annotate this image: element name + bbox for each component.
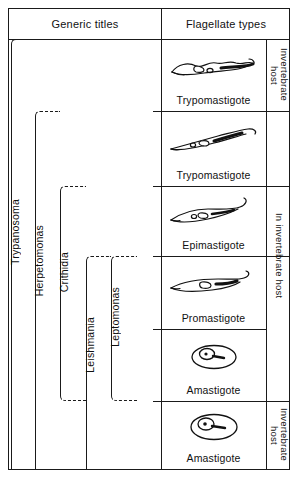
flagellate-cell-6: Amastigote: [161, 401, 266, 469]
flagellate-cell-5: Amastigote: [161, 329, 266, 401]
header-generic-titles-label: Generic titles: [52, 18, 119, 30]
genus-label-herpetomonas: Herpetomonas: [33, 225, 47, 296]
trypomastigote-wavy-icon: [161, 39, 266, 95]
host-group-3-label: Invertebrate host: [268, 408, 290, 461]
flagellate-label-4: Promastigote: [182, 313, 246, 326]
host-group-1-label: Invertebrate host: [268, 48, 290, 101]
trypomastigote-slim-icon: [161, 111, 266, 170]
genus-label-leishmania: Leishmania: [84, 317, 98, 373]
host-group-3: Invertebrate host: [266, 401, 291, 469]
trypanosomatid-figure: Generic titles Flagellate types Tryp: [0, 0, 299, 481]
promastigote-icon: [161, 256, 266, 313]
genus-label-crithidia: Crithidia: [58, 252, 72, 292]
host-group-2: In invertebrate host: [266, 111, 291, 401]
host-group-1: Invertebrate host: [266, 39, 291, 111]
flagellate-cell-3: Epimastigote: [161, 186, 266, 256]
flagellate-label-6: Amastigote: [186, 453, 240, 466]
figure-table: Generic titles Flagellate types Tryp: [8, 8, 290, 470]
genus-label-trypanosoma: Trypanosoma: [9, 199, 23, 265]
flagellate-cell-2: Trypomastigote: [161, 111, 266, 186]
genus-label-leptomonas: Leptomonas: [109, 287, 123, 347]
flagellate-cell-1: Trypomastigote: [161, 39, 266, 111]
genus-bracket-crithidia: [60, 186, 86, 401]
epimastigote-icon: [161, 186, 266, 240]
amastigote-icon: [161, 329, 266, 385]
host-group-2-label: In invertebrate host: [273, 213, 284, 298]
header-flagellate-types: Flagellate types: [161, 9, 291, 39]
flagellate-label-3: Epimastigote: [182, 240, 245, 253]
flagellate-label-1: Trypomastigote: [176, 95, 250, 108]
header-flagellate-types-label: Flagellate types: [186, 18, 266, 30]
flagellate-label-2: Trypomastigote: [176, 170, 250, 183]
header-generic-titles: Generic titles: [9, 9, 161, 39]
amastigote-icon: [161, 401, 266, 453]
flagellate-label-5: Amastigote: [186, 385, 240, 398]
flagellate-cell-4: Promastigote: [161, 256, 266, 329]
